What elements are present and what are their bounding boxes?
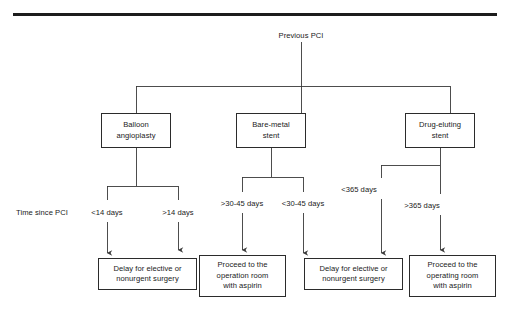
row-label-time-since-pci: Time since PCI bbox=[16, 208, 68, 217]
edge-label-gt-365-days: >365 days bbox=[404, 201, 440, 210]
node-bare-metal-stent[interactable]: Bare-metal stent bbox=[236, 113, 306, 148]
edge-label-gt-30-45-days: >30-45 days bbox=[221, 199, 264, 208]
edge-label-gt-14-days: >14 days bbox=[162, 208, 193, 217]
flowchart-figure: Previous PCI bbox=[0, 0, 510, 312]
node-delay-elective-right[interactable]: Delay for elective or nonurgent surgery bbox=[304, 258, 403, 290]
outcome-proceed-right-line2: operating room bbox=[424, 271, 482, 282]
node-proceed-operation-room[interactable]: Proceed to the operation room with aspir… bbox=[199, 255, 286, 297]
edge-label-lt-365-days: <365 days bbox=[341, 185, 377, 194]
outcome-proceed-right-line1: Proceed to the bbox=[424, 260, 482, 271]
node-bare-metal-line1: Bare-metal bbox=[249, 120, 293, 131]
node-balloon-line2: angioplasty bbox=[114, 131, 159, 142]
edge-label-lt-30-45-days: <30-45 days bbox=[282, 199, 325, 208]
node-bare-metal-line2: stent bbox=[249, 131, 293, 142]
node-balloon-line1: Balloon bbox=[114, 120, 159, 131]
edge-label-lt-14-days: <14 days bbox=[91, 208, 122, 217]
outcome-proceed-left-line2: operation room bbox=[214, 271, 272, 282]
node-drug-eluting-line2: stent bbox=[416, 131, 464, 142]
node-balloon-angioplasty[interactable]: Balloon angioplasty bbox=[101, 113, 171, 148]
node-proceed-operating-room[interactable]: Proceed to the operating room with aspir… bbox=[409, 255, 496, 297]
outcome-left-delay-line2: nonurgent surgery bbox=[110, 274, 184, 285]
outcome-proceed-left-line1: Proceed to the bbox=[214, 260, 272, 271]
outcome-proceed-left-line3: with aspirin bbox=[214, 281, 272, 292]
node-drug-eluting-line1: Drug-eluting bbox=[416, 120, 464, 131]
outcome-right-delay-line2: nonurgent surgery bbox=[316, 274, 390, 285]
outcome-right-delay-line1: Delay for elective or bbox=[316, 264, 390, 275]
outcome-proceed-right-line3: with aspirin bbox=[424, 281, 482, 292]
node-delay-elective-left[interactable]: Delay for elective or nonurgent surgery bbox=[98, 258, 197, 290]
outcome-left-delay-line1: Delay for elective or bbox=[110, 264, 184, 275]
node-drug-eluting-stent[interactable]: Drug-eluting stent bbox=[405, 113, 475, 148]
